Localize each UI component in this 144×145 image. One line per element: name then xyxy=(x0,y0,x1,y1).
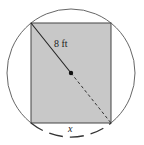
inscribed-rectangle-diagram: 8 ft x xyxy=(0,0,144,145)
diagonal-label: 8 ft xyxy=(54,38,68,49)
center-point xyxy=(69,71,73,75)
arc-label: x xyxy=(67,123,73,134)
